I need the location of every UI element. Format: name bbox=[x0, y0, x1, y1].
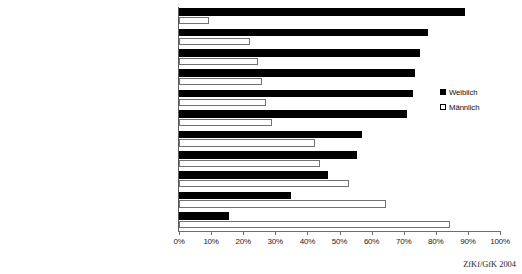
chart-category-row: Malerei, Bildende Kunst bbox=[179, 48, 500, 68]
bar-maennlich bbox=[179, 58, 258, 65]
bar-maennlich bbox=[179, 78, 262, 85]
bar-weiblich bbox=[179, 131, 362, 139]
bar-weiblich bbox=[179, 49, 420, 57]
bar-maennlich bbox=[179, 38, 250, 45]
x-axis-tick bbox=[211, 231, 212, 235]
hollow-square-icon bbox=[440, 104, 446, 110]
bar-weiblich bbox=[179, 151, 357, 159]
source-credit: ZfKf/GfK 2004 bbox=[463, 260, 516, 270]
chart-category-row: Fotografieren bbox=[179, 129, 500, 149]
x-axis-tick bbox=[372, 231, 373, 235]
bar-weiblich bbox=[179, 171, 328, 179]
bar-weiblich bbox=[179, 110, 407, 118]
legend-label: Weiblich bbox=[449, 88, 478, 97]
x-axis-tick bbox=[243, 231, 244, 235]
x-axis-tick bbox=[275, 231, 276, 235]
bar-weiblich bbox=[179, 90, 413, 98]
bar-weiblich bbox=[179, 212, 229, 220]
filled-square-icon bbox=[440, 89, 446, 95]
bar-weiblich bbox=[179, 192, 291, 200]
bar-maennlich bbox=[179, 180, 349, 187]
chart-category-row: Sprayen bbox=[179, 211, 500, 231]
bar-weiblich bbox=[179, 69, 415, 77]
x-axis-tick bbox=[307, 231, 308, 235]
bar-chart-figure: Ballett/Tanzen/JazzdanceSchreiben von Ge… bbox=[0, 0, 522, 274]
chart-category-row: Schreiben von Gedichten, Artikeln etc. bbox=[179, 27, 500, 47]
bar-maennlich bbox=[179, 221, 450, 228]
chart-category-row: Ballett/Tanzen/Jazzdance bbox=[179, 7, 500, 27]
chart-category-row: Musikinstrument spielen bbox=[179, 150, 500, 170]
x-axis-tick bbox=[468, 231, 469, 235]
bar-maennlich bbox=[179, 99, 266, 106]
plot-area: Ballett/Tanzen/JazzdanceSchreiben von Ge… bbox=[179, 7, 500, 231]
x-axis-tick bbox=[500, 231, 501, 235]
bar-maennlich bbox=[179, 160, 320, 167]
x-axis-tick bbox=[179, 231, 180, 235]
bar-weiblich bbox=[179, 8, 465, 16]
bar-maennlich bbox=[179, 17, 209, 24]
legend-label: Männlich bbox=[449, 103, 479, 112]
chart-legend: WeiblichMännlich bbox=[440, 86, 520, 116]
x-axis-tick-label: 100% bbox=[480, 237, 520, 247]
x-axis-tick bbox=[340, 231, 341, 235]
chart-category-row: Mit Video-/Digitalkamera arbeiten bbox=[179, 190, 500, 210]
legend-entry: Weiblich bbox=[440, 86, 520, 98]
bar-maennlich bbox=[179, 200, 386, 207]
bar-weiblich bbox=[179, 29, 428, 37]
chart-category-row: Design, Layout bbox=[179, 170, 500, 190]
bar-maennlich bbox=[179, 119, 272, 126]
x-axis-tick bbox=[436, 231, 437, 235]
x-axis-tick bbox=[404, 231, 405, 235]
legend-entry: Männlich bbox=[440, 101, 520, 113]
bar-maennlich bbox=[179, 139, 315, 146]
